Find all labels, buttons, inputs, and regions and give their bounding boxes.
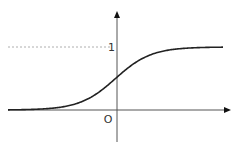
origin-label: O: [104, 113, 113, 126]
sigmoid-curve: [8, 47, 223, 110]
sigmoid-diagram: 1 O: [0, 0, 233, 152]
y-axis-arrowhead: [114, 11, 120, 18]
asymptote-label: 1: [108, 41, 115, 54]
x-axis-arrowhead: [224, 107, 231, 113]
